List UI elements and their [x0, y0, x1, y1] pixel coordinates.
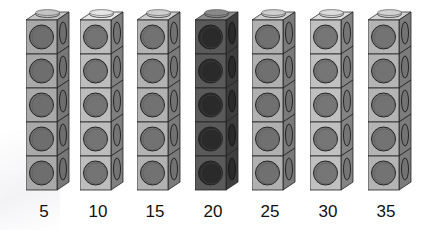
tower-count-label: 5: [20, 202, 68, 222]
tower-count-label: 15: [131, 202, 179, 222]
cube-tower-graphic: [195, 6, 243, 191]
cube-tower: [137, 6, 185, 191]
tower-count-label: 10: [74, 202, 122, 222]
tower-count-label: 25: [246, 202, 294, 222]
tower-count-label: 30: [304, 202, 352, 222]
cube-tower: [252, 6, 300, 191]
cube-tower: [195, 6, 243, 191]
cube-tower-graphic: [80, 6, 128, 191]
cube-tower-graphic: [310, 6, 358, 191]
cube-tower: [368, 6, 416, 191]
tower-count-label: 20: [189, 202, 237, 222]
cube-tower: [310, 6, 358, 191]
cube-tower: [80, 6, 128, 191]
cube-tower-graphic: [252, 6, 300, 191]
cube-tower-graphic: [26, 6, 74, 191]
cube-tower-graphic: [137, 6, 185, 191]
cube-tower: [26, 6, 74, 191]
tower-count-label: 35: [362, 202, 410, 222]
cube-tower-graphic: [368, 6, 416, 191]
